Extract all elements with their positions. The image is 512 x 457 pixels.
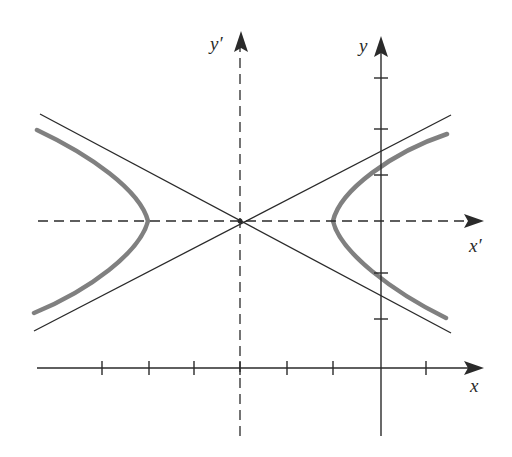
- y-prime-axis: y′: [208, 31, 248, 436]
- hyperbola-diagram: x′ y′ x y: [0, 0, 512, 457]
- x-prime-arrow-icon: [464, 214, 484, 228]
- x-prime-axis: x′: [38, 214, 484, 256]
- y-axis: y: [357, 35, 388, 436]
- center-point: [238, 219, 243, 224]
- hyperbola-right-branch: [333, 134, 447, 318]
- x-axis: x: [37, 361, 484, 396]
- y-label: y: [357, 35, 368, 56]
- asymptote-ascending: [34, 115, 451, 331]
- x-prime-label: x′: [468, 235, 482, 256]
- x-label: x: [469, 375, 479, 396]
- y-prime-label: y′: [208, 33, 223, 54]
- y-prime-arrow-icon: [234, 31, 248, 52]
- asymptotes: [34, 114, 451, 333]
